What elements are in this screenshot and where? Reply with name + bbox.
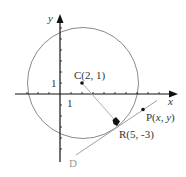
x-axis-label: x — [167, 95, 173, 107]
point-c — [80, 81, 84, 85]
point-r-label: R(5, -3) — [119, 128, 154, 141]
x-tick-label-1: 1 — [67, 97, 73, 109]
y-axis — [57, 14, 64, 162]
radius-line-cr — [82, 83, 117, 123]
x-axis — [15, 91, 178, 98]
point-c-label: C(2, 1) — [74, 69, 106, 82]
point-p — [141, 108, 145, 112]
point-p-label: P(x, y) — [146, 111, 175, 124]
tangent-line-diagram: y x 1 1 C(2, 1) R(5, -3) P(x, y) D — [0, 0, 186, 177]
y-axis-arrow-icon — [57, 14, 64, 23]
line-d-label: D — [69, 157, 77, 169]
y-tick-label-1: 1 — [51, 77, 57, 89]
y-axis-label: y — [47, 12, 53, 24]
